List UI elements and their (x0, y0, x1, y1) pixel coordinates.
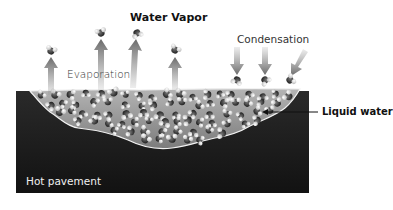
water-molecule-icon (230, 75, 244, 87)
evaporation-arrow-icon (94, 39, 108, 90)
hot-pavement-label: Hot pavement (26, 175, 101, 187)
water-molecule-icon (284, 73, 297, 87)
liquid-water-label: Liquid water (322, 106, 393, 117)
water-vapor-label: Water Vapor (130, 11, 207, 24)
condensation-label: Condensation (237, 33, 309, 45)
water-molecule-icon (94, 27, 107, 38)
evaporation-arrow-icon (168, 57, 182, 90)
evaporation-arrows (44, 39, 182, 95)
water-molecule-icon (44, 44, 58, 56)
water-molecule-icon (258, 74, 272, 88)
condensation-arrow-icon (230, 47, 244, 75)
water-molecule-icon (130, 28, 144, 40)
water-cycle-diagram: Water Vapor Evaporation Condensation Liq… (0, 0, 393, 210)
evaporation-arrow-icon (44, 57, 58, 95)
evaporation-label: Evaporation (67, 68, 130, 80)
condensation-arrow-icon (258, 47, 272, 75)
condensation-arrow-icon (291, 49, 308, 76)
evaporation-arrow-icon (128, 39, 142, 88)
condensation-arrows (230, 47, 308, 76)
water-molecule-icon (168, 43, 182, 56)
